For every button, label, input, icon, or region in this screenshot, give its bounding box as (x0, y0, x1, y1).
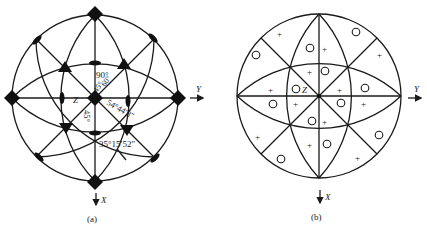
axis-label-z-b: Z (302, 85, 308, 95)
circle-marker (352, 28, 360, 36)
plus-marker: + (268, 85, 273, 95)
axis-label-x-a: X (100, 195, 107, 205)
angle-label-35-15-52: 35°15′52″ (99, 139, 136, 149)
lens (60, 92, 65, 104)
plus-marker: + (255, 132, 260, 142)
circle-marker (306, 44, 314, 52)
plus-marker: + (293, 99, 298, 109)
plus-marker: + (322, 44, 327, 54)
circle-marker (292, 85, 300, 93)
plus-marker: + (277, 29, 282, 39)
circle-marker (277, 155, 285, 163)
plus-marker: + (322, 117, 327, 127)
stereographic-projection-figure: 90° 45° 60° 54°44′8″ 45° 35°15′52″ Z Y X… (0, 0, 427, 231)
angle-label-45-lower: 45° (82, 110, 92, 122)
circle-marker (323, 140, 331, 148)
diamond-bottom (87, 174, 103, 190)
circle-marker (361, 84, 369, 92)
circle-marker (252, 51, 260, 59)
leader-line (117, 149, 126, 160)
lens (89, 61, 101, 66)
circle-marker (269, 100, 277, 108)
axis-label-y-a: Y (196, 84, 202, 94)
axis-label-x-b: X (324, 192, 331, 202)
plus-marker: + (337, 85, 342, 95)
axis-label-y-b: Y (414, 84, 420, 94)
plus-marker: + (307, 140, 312, 150)
lens (147, 32, 159, 44)
angle-label-54-44-8: 54°44′8″ (105, 97, 136, 121)
caption-a: (a) (87, 214, 97, 224)
lens (126, 95, 131, 107)
plus-marker: + (361, 99, 366, 109)
circle-marker (321, 67, 329, 75)
panel-a: 90° 45° 60° 54°44′8″ 45° 35°15′52″ Z Y X… (4, 6, 203, 224)
center-dot-b (317, 94, 321, 98)
diamond-top (87, 6, 103, 22)
circle-marker (375, 131, 383, 139)
plus-marker: + (307, 67, 312, 77)
circle-marker (308, 117, 316, 125)
caption-b: (b) (311, 212, 322, 222)
lens (89, 131, 101, 136)
axis-label-z-a: Z (73, 95, 79, 105)
plus-marker: + (355, 153, 360, 163)
circle-marker (337, 99, 345, 107)
panel-b: + + + + + + + + + + + + Z Y X (b) (237, 14, 421, 222)
plus-marker: + (377, 50, 382, 60)
